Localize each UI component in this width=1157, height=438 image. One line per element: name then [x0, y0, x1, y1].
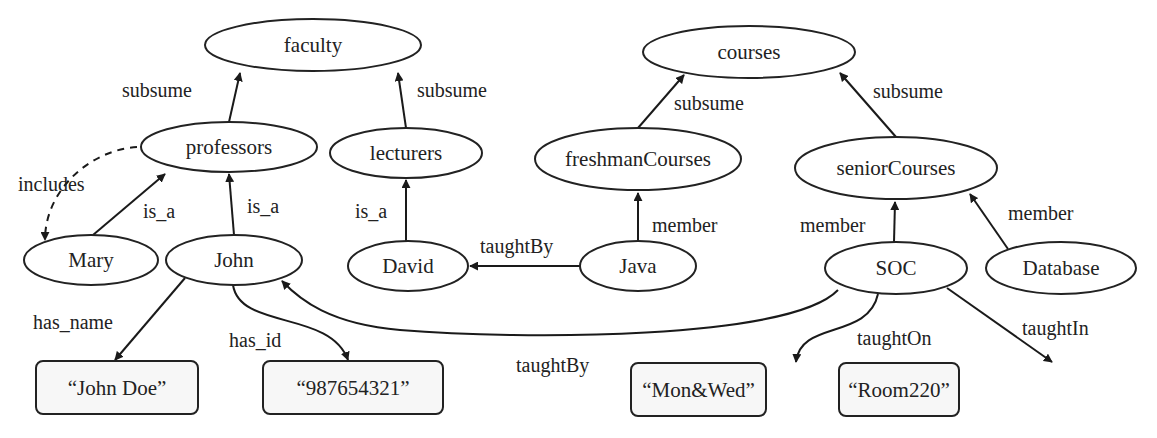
edges-layer [45, 73, 1052, 362]
edge-member-arrow [894, 202, 895, 242]
edge-label: member [800, 214, 866, 236]
node-label: Java [619, 254, 657, 278]
node-david: David [348, 241, 468, 291]
edge-label: taughtOn [857, 327, 931, 350]
node-idnum: “987654321” [263, 361, 443, 414]
node-database: Database [986, 242, 1136, 294]
edge-label: subsume [674, 92, 744, 114]
edge-label: subsume [122, 79, 192, 101]
edge-label: is_a [143, 200, 175, 222]
node-professors: professors [141, 122, 317, 172]
node-freshmancourses: freshmanCourses [535, 128, 741, 190]
node-label: “987654321” [296, 376, 409, 400]
node-label: David [382, 254, 434, 278]
edge-label: member [1008, 202, 1074, 224]
edge-labels-layer: subsumesubsumeincludesis_ais_ais_ataught… [18, 79, 1089, 377]
node-java: Java [580, 241, 696, 291]
node-label: professors [186, 135, 272, 159]
node-label: lecturers [370, 141, 442, 165]
edge-label: is_a [355, 200, 387, 222]
node-label: Database [1023, 256, 1100, 280]
ontology-diagram: facultyprofessorslecturersMaryJohnDavidc… [0, 0, 1157, 438]
edge-member-arrow [970, 194, 1008, 249]
edge-label: taughtIn [1022, 317, 1089, 340]
node-label: “John Doe” [68, 376, 167, 400]
node-label: “Mon&Wed” [642, 378, 755, 402]
edge-label: has_id [229, 329, 281, 351]
node-courses: courses [643, 26, 855, 78]
node-label: courses [718, 40, 781, 64]
edge-label: subsume [417, 79, 487, 101]
edge-label: includes [18, 173, 85, 195]
node-label: seniorCourses [837, 156, 956, 180]
node-john: John [166, 235, 302, 285]
edge-label: taughtBy [516, 354, 589, 377]
node-label: Mary [68, 248, 114, 272]
node-faculty: faculty [205, 19, 421, 71]
edge-label: taughtBy [480, 235, 553, 258]
node-label: “Room220” [848, 378, 949, 402]
node-label: freshmanCourses [565, 147, 711, 171]
node-label: SOC [876, 256, 917, 280]
node-johndoe: “John Doe” [36, 361, 198, 414]
edge-has-name-arrow [115, 278, 185, 360]
node-seniorcourses: seniorCourses [795, 137, 997, 199]
edge-label: member [652, 214, 718, 236]
edge-is-a-arrow [229, 174, 234, 235]
node-room220: “Room220” [839, 363, 959, 416]
node-lecturers: lecturers [330, 128, 482, 178]
node-label: faculty [284, 33, 343, 57]
node-monwed: “Mon&Wed” [631, 363, 766, 416]
edge-subsume-arrow [229, 73, 240, 122]
edge-label: subsume [873, 80, 943, 102]
edge-label: has_name [33, 311, 113, 333]
node-label: John [214, 248, 254, 272]
edge-label: is_a [247, 195, 279, 217]
edge-taughtby-arrow [282, 281, 838, 335]
node-mary: Mary [24, 235, 158, 285]
node-soc: SOC [825, 242, 967, 294]
diagram-svg: facultyprofessorslecturersMaryJohnDavidc… [0, 0, 1157, 438]
edge-subsume-arrow [398, 73, 406, 128]
